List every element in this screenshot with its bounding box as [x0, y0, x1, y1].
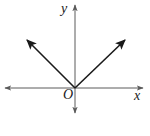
- coordinate-plane-svg: [0, 0, 150, 136]
- origin-label: O: [63, 88, 73, 102]
- y-axis-label: y: [61, 2, 67, 16]
- x-axis-label: x: [134, 89, 140, 103]
- coordinate-figure: y x O: [0, 0, 150, 136]
